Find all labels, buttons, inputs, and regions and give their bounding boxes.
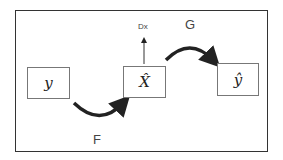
- node-y-hat: ŷ: [217, 63, 259, 96]
- label-dx: Dx: [138, 22, 148, 31]
- arrow-g: [166, 48, 213, 60]
- label-g: G: [185, 17, 195, 32]
- node-y: y: [27, 67, 70, 99]
- node-x-hat: X̂: [123, 66, 166, 98]
- node-y-hat-label: ŷ: [234, 71, 242, 89]
- arrow-f: [74, 103, 123, 116]
- node-y-label: y: [44, 74, 52, 92]
- label-f: F: [93, 132, 101, 147]
- node-x-hat-label: X̂: [139, 73, 150, 91]
